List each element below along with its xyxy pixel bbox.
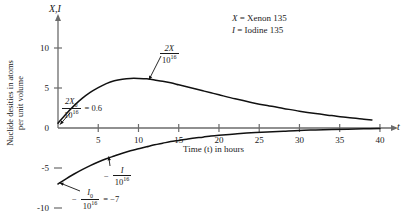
y-tick-label: 10	[40, 43, 50, 53]
legend-symbol-x: X	[232, 13, 238, 23]
annotation-iodine-curve: − I 1016	[104, 166, 131, 187]
fraction-numerator: 2X0	[62, 97, 81, 108]
y-tick-label: -10	[37, 203, 49, 213]
legend-entry-xenon: X = Xenon 135	[232, 13, 287, 25]
fraction-numerator: I0	[81, 188, 100, 199]
x-tick-label: 25	[255, 135, 265, 145]
x-tick-label: 35	[335, 135, 345, 145]
annotation-xenon-curve: 2X 1016	[160, 44, 179, 65]
chart-figure: 510152025303540 1050-5-10 X,I t Time (t)…	[0, 0, 408, 223]
x-tick-label: 40	[375, 135, 385, 145]
y-caption-line-2: per unit volume	[16, 38, 26, 168]
num-subscript: 0	[90, 193, 93, 199]
initial-xenon-value: = 0.6	[85, 103, 103, 113]
series-line-xenon	[58, 78, 372, 123]
den-exponent: 16	[91, 200, 97, 206]
y-tick-label: -5	[42, 163, 50, 173]
chart-legend: X = Xenon 135 I = Iodine 135	[232, 13, 287, 36]
y-tick-label: 0	[45, 123, 50, 133]
fraction-2x-over-10e16: 2X 1016	[160, 44, 179, 65]
legend-eq-x: =	[240, 13, 245, 23]
fraction-denominator: 1016	[113, 175, 132, 187]
fraction-i-over-10e16: I 1016	[113, 166, 132, 187]
x-axis-ticks: 510152025303540	[96, 124, 385, 145]
legend-entry-iodine: I = Iodine 135	[232, 25, 287, 37]
fraction-i0-over-10e16: I0 1016	[81, 188, 100, 211]
annotation-initial-iodine: − I0 1016 = −7	[72, 188, 119, 211]
chart-axes	[55, 14, 398, 131]
x-axis-title: t	[397, 121, 400, 132]
fraction-2x0-over-10e16: 2X0 1016	[62, 97, 81, 120]
iodine-minus-sign: −	[104, 171, 109, 181]
den-exponent: 16	[123, 176, 129, 182]
annotation-initial-xenon: 2X0 1016 = 0.6	[62, 97, 102, 120]
initial-iodine-minus-sign: −	[72, 194, 77, 204]
den-base: 10	[162, 55, 171, 65]
x-caption-text: Time (t) in hours	[183, 144, 244, 154]
legend-label-iodine: Iodine 135	[245, 25, 284, 35]
x-tick-label: 30	[295, 135, 305, 145]
legend-symbol-i: I	[232, 25, 235, 35]
x-tick-label: 5	[96, 135, 101, 145]
den-exponent: 16	[73, 109, 79, 115]
fraction-denominator: 1016	[160, 53, 179, 65]
den-exponent: 16	[171, 54, 177, 60]
fraction-numerator: 2X	[160, 44, 179, 53]
y-axis-title: X,I	[49, 3, 61, 14]
fraction-numerator: I	[113, 166, 132, 175]
legend-eq-i: =	[237, 25, 242, 35]
fraction-denominator: 1016	[81, 199, 100, 211]
initial-iodine-value: = −7	[103, 194, 119, 204]
x-tick-label: 10	[134, 135, 144, 145]
den-base: 10	[64, 110, 73, 120]
num-subscript: 0	[74, 102, 77, 108]
fraction-denominator: 1016	[62, 108, 81, 120]
y-tick-label: 5	[45, 83, 50, 93]
legend-label-xenon: Xenon 135	[247, 13, 287, 23]
y-axis-caption: Nuclide desities in atoms per unit volum…	[6, 38, 26, 168]
x-axis-caption: Time (t) in hours	[183, 144, 244, 154]
